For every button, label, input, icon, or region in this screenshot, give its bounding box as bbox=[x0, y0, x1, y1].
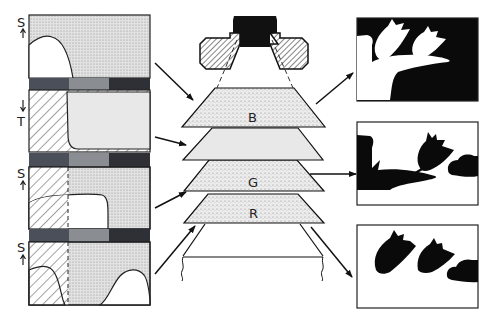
arrows-left-to-layers bbox=[155, 63, 195, 274]
axis-label-1: S bbox=[17, 15, 26, 38]
arrows-layers-to-images bbox=[310, 73, 356, 277]
svg-text:G: G bbox=[248, 175, 258, 190]
layer-blue: B bbox=[182, 88, 325, 127]
color-bar-2 bbox=[29, 153, 150, 167]
svg-text:B: B bbox=[248, 110, 257, 125]
svg-text:S: S bbox=[17, 15, 25, 30]
color-bar-3 bbox=[29, 229, 150, 242]
left-spectral-panels: S T S S bbox=[16, 15, 150, 305]
panel-filter-transmission bbox=[29, 90, 150, 152]
lens-cap bbox=[233, 16, 277, 33]
panel-red-sensitivity bbox=[29, 242, 150, 305]
svg-text:S: S bbox=[17, 166, 25, 181]
arrow-up-icon bbox=[21, 181, 26, 190]
film-layers: R G B bbox=[181, 88, 325, 281]
axis-label-3: S bbox=[17, 166, 26, 190]
camera-lens bbox=[200, 16, 308, 88]
color-bar-1 bbox=[29, 78, 150, 90]
arrow-up-icon bbox=[21, 29, 26, 38]
image-panel-red bbox=[357, 225, 478, 308]
panel-green-sensitivity bbox=[29, 167, 150, 229]
svg-text:R: R bbox=[249, 206, 258, 221]
axis-label-4: S bbox=[17, 240, 26, 265]
image-panel-green bbox=[357, 122, 478, 205]
film-base bbox=[181, 224, 323, 281]
svg-text:T: T bbox=[16, 114, 25, 129]
panel-blue-sensitivity bbox=[29, 15, 150, 78]
axis-label-2: T bbox=[16, 100, 26, 129]
arrow-up-icon bbox=[21, 255, 26, 265]
layer-green: G bbox=[184, 160, 324, 191]
image-panel-blue bbox=[357, 18, 478, 101]
arrow-down-icon bbox=[21, 100, 26, 111]
svg-text:S: S bbox=[17, 240, 25, 255]
layer-red: R bbox=[184, 194, 324, 223]
layer-yellow-filter bbox=[183, 128, 323, 160]
color-film-diagram: S T S S R bbox=[0, 0, 494, 333]
